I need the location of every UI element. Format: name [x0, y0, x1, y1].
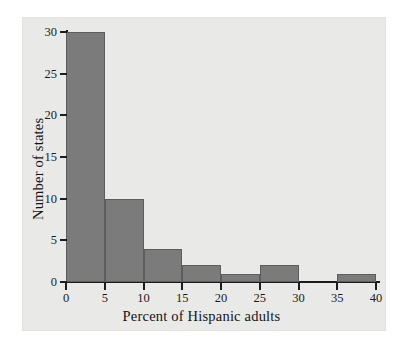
x-axis-tick [65, 283, 67, 290]
histogram-plot: 051015202530 0510152025303540 Percent of… [0, 0, 403, 345]
y-axis-tick-label: 30 [31, 26, 57, 39]
histogram-bar [182, 265, 221, 282]
x-axis-tick-label: 0 [51, 292, 81, 305]
y-axis-tick [60, 73, 67, 75]
y-axis-tick [60, 198, 67, 200]
x-axis-tick-label: 5 [90, 292, 120, 305]
histogram-bar [221, 274, 260, 282]
x-axis-tick [375, 283, 377, 290]
x-axis-tick [298, 283, 300, 290]
histogram-bar [337, 274, 376, 282]
y-axis-title: Number of states [30, 118, 47, 220]
y-axis-tick [60, 114, 67, 116]
x-axis-tick-label: 20 [206, 292, 236, 305]
x-axis-tick [143, 283, 145, 290]
x-axis-tick-label: 35 [322, 292, 352, 305]
y-axis-tick [60, 239, 67, 241]
x-axis-tick-label: 30 [284, 292, 314, 305]
x-axis-tick-label: 10 [129, 292, 159, 305]
x-axis-tick [220, 283, 222, 290]
x-axis-tick [336, 283, 338, 290]
y-axis-tick-label: 25 [31, 68, 57, 81]
x-axis-tick [181, 283, 183, 290]
x-axis-tick-label: 15 [167, 292, 197, 305]
y-axis-tick-label: 0 [31, 276, 57, 289]
x-axis-tick-label: 25 [245, 292, 275, 305]
x-axis-tick [259, 283, 261, 290]
y-axis-tick-label: 5 [31, 234, 57, 247]
histogram-bar [144, 249, 183, 282]
y-axis-tick [60, 156, 67, 158]
histogram-bar [105, 199, 144, 282]
x-axis-tick [104, 283, 106, 290]
y-axis-tick [60, 31, 67, 33]
x-axis-title: Percent of Hispanic adults [0, 308, 403, 325]
histogram-bar [66, 32, 105, 282]
x-axis-tick-label: 40 [361, 292, 391, 305]
histogram-bar [260, 265, 299, 282]
